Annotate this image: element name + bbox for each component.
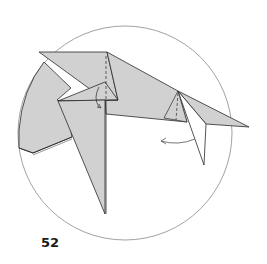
origami-diagram: [0, 0, 267, 264]
fold-left-arrow-icon: [161, 139, 195, 143]
leg-flap: [58, 100, 105, 214]
step-number: 52: [41, 235, 59, 250]
fold-left-arrowhead-icon: [161, 138, 166, 144]
